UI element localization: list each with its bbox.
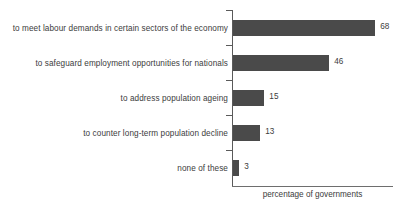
bar-value-label: 46 [334,58,343,66]
category-label: to address population ageing [121,93,228,102]
bar-row: none of these 3 [0,150,415,185]
bar-group: 68 [233,20,389,36]
bar-row: to address population ageing 15 [0,80,415,115]
bar [233,160,239,176]
bar [233,20,375,36]
bar [233,125,260,141]
category-label: none of these [177,163,228,172]
bar-group: 13 [233,125,274,141]
bar-group: 3 [233,160,249,176]
x-axis-caption: percentage of governments [232,190,393,199]
bar-group: 15 [233,90,278,106]
bar-value-label: 13 [265,128,274,136]
bar-value-label: 15 [269,93,278,101]
bar-row: to meet labour demands in certain sector… [0,10,415,45]
x-axis-baseline [232,186,393,187]
category-label: to meet labour demands in certain sector… [13,23,228,32]
bar [233,90,264,106]
category-label: to counter long-term population decline [83,128,228,137]
bar [233,55,329,71]
bar-chart: to meet labour demands in certain sector… [0,0,415,208]
bar-value-label: 3 [244,163,249,171]
category-label: to safeguard employment opportunities fo… [35,58,228,67]
bar-group: 46 [233,55,343,71]
bar-row: to counter long-term population decline … [0,115,415,150]
bar-value-label: 68 [380,23,389,31]
bar-row: to safeguard employment opportunities fo… [0,45,415,80]
